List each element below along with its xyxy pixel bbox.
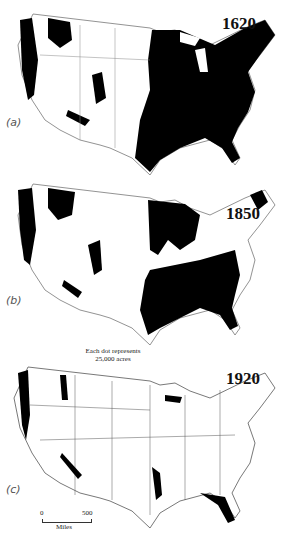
- legend-line-1: Each dot represents: [58, 347, 168, 355]
- legend-line-2: 25,000 acres: [58, 355, 168, 363]
- map-legend: Each dot represents 25,000 acres: [58, 347, 168, 363]
- scale-bar: 0 500 Miles: [38, 509, 98, 539]
- scale-end: 500: [82, 509, 93, 517]
- scale-start: 0: [40, 509, 44, 517]
- year-label: 1920: [226, 369, 260, 389]
- map-panel-1620: 1620 (a): [0, 0, 294, 175]
- map-panel-1920: Each dot represents 25,000 acres 1920 (c…: [0, 345, 294, 539]
- panel-label: (a): [6, 116, 21, 129]
- panel-label: (b): [6, 294, 22, 307]
- map-panel-1850: 1850 (b): [0, 180, 294, 345]
- panel-label: (c): [6, 483, 21, 496]
- year-label: 1850: [226, 204, 260, 224]
- scale-unit: Miles: [56, 523, 72, 531]
- year-label: 1620: [222, 14, 256, 34]
